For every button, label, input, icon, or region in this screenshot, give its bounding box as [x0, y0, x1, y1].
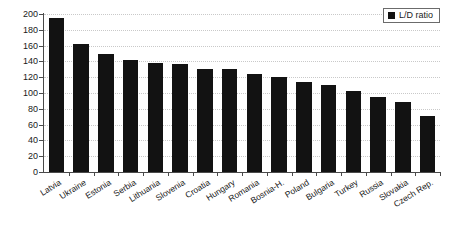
bar	[222, 69, 237, 172]
x-axis-tick	[440, 172, 441, 176]
y-axis-tick-label: 60	[12, 121, 38, 130]
bar	[346, 91, 361, 172]
bar	[172, 64, 187, 172]
x-axis-tick	[168, 172, 169, 176]
x-axis-tick-label: Czech Rep.	[389, 178, 434, 211]
bar	[98, 54, 113, 172]
x-axis-tick	[69, 172, 70, 176]
y-axis-labels: 020406080100120140160180200	[6, 0, 38, 233]
x-axis-tick-label: Romania	[216, 178, 261, 211]
y-axis-tick-label: 200	[12, 10, 38, 19]
y-axis-tick-label: 80	[12, 105, 38, 114]
x-axis-tick	[341, 172, 342, 176]
bar	[73, 44, 88, 172]
y-axis-tick-label: 160	[12, 42, 38, 51]
x-axis-tick-label: Estonia	[67, 178, 112, 211]
bar	[321, 85, 336, 172]
legend-square-marker-icon	[388, 12, 395, 19]
x-axis-tick	[217, 172, 218, 176]
bar	[420, 116, 435, 172]
x-axis-tick	[242, 172, 243, 176]
bar-chart: 020406080100120140160180200 LatviaUkrain…	[0, 0, 452, 233]
x-axis-tick-label: Russia	[339, 178, 384, 211]
y-axis-tick-label: 0	[12, 168, 38, 177]
x-axis-tick-label: Slovenia	[141, 178, 186, 211]
y-axis-tick-label: 20	[12, 152, 38, 161]
x-axis-tick	[267, 172, 268, 176]
bar	[395, 102, 410, 172]
bar	[247, 74, 262, 172]
legend-label: L/D ratio	[399, 11, 433, 20]
legend: L/D ratio	[383, 8, 440, 23]
bar	[271, 77, 286, 172]
x-axis-tick-label: Hungary	[191, 178, 236, 211]
bar-series-ld-ratio	[44, 14, 440, 172]
bar	[123, 60, 138, 172]
x-axis-tick-label: Croatia	[166, 178, 211, 211]
bar	[148, 63, 163, 172]
x-axis-tick	[143, 172, 144, 176]
x-axis-tick-label: Bulgaria	[290, 178, 335, 211]
y-axis-tick-label: 40	[12, 136, 38, 145]
x-axis-tick-label: Serbia	[92, 178, 137, 211]
x-axis-tick	[193, 172, 194, 176]
x-axis-tick	[366, 172, 367, 176]
y-axis-tick-label: 140	[12, 57, 38, 66]
x-axis-tick-label: Bosnia-H.	[240, 178, 285, 211]
x-axis-tick-label: Poland	[265, 178, 310, 211]
x-axis-tick-label: Lithuania	[117, 178, 162, 211]
y-axis-tick-label: 120	[12, 73, 38, 82]
x-axis-tick-label: Ukraine	[42, 178, 87, 211]
x-axis-tick-label: Turkey	[315, 178, 360, 211]
x-axis-tick	[118, 172, 119, 176]
bar	[296, 82, 311, 172]
x-axis-tick	[316, 172, 317, 176]
y-axis-tick-label: 180	[12, 26, 38, 35]
x-axis-tick	[94, 172, 95, 176]
x-axis-tick	[391, 172, 392, 176]
x-axis-tick	[415, 172, 416, 176]
bar	[197, 69, 212, 172]
x-axis-tick-label: Slovakia	[364, 178, 409, 211]
x-axis-tick	[292, 172, 293, 176]
y-axis-tick-label: 100	[12, 89, 38, 98]
bar	[49, 18, 64, 172]
bar	[370, 97, 385, 172]
